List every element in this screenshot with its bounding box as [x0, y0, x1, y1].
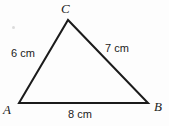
side-length-label-ac: 6 cm	[11, 48, 35, 59]
side-length-label-bc: 7 cm	[105, 43, 129, 54]
vertex-label-c: C	[61, 2, 70, 15]
triangle-outline	[19, 20, 148, 103]
vertex-label-b: B	[154, 100, 162, 113]
geometry-figure: C A B 6 cm 7 cm 8 cm	[0, 0, 169, 126]
stray-speck-artifact	[12, 26, 15, 29]
side-length-label-ab: 8 cm	[68, 109, 92, 120]
vertex-label-a: A	[3, 103, 11, 116]
